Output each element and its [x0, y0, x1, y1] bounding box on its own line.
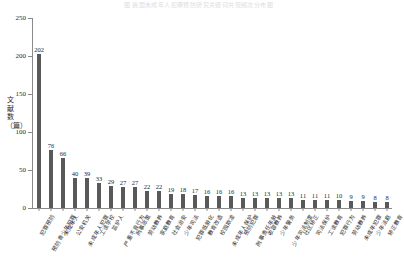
figure-caption-cropped: 图 我国未成年人犯罪预防研究关键词共现频次分布图 — [0, 0, 397, 10]
x-tick — [303, 208, 304, 211]
bar-item: 66未成年人 — [57, 18, 69, 208]
bar — [97, 183, 101, 208]
bar-series: 202犯罪预防76预防青少年犯罪66未成年人40公安机关39未成年人犯罪33工读… — [33, 18, 392, 208]
x-tick — [351, 208, 352, 211]
x-tick — [231, 208, 232, 211]
bar-value-label: 9 — [349, 193, 352, 200]
bar-value-label: 39 — [84, 170, 91, 177]
bar-item: 40公安机关 — [69, 18, 81, 208]
bar-value-label: 29 — [108, 178, 115, 185]
bar — [277, 198, 281, 208]
y-tick-label: 50 — [19, 166, 26, 174]
bar-item: 8少年法庭 — [369, 18, 381, 208]
x-tick — [279, 208, 280, 211]
x-tick — [123, 208, 124, 211]
x-tick — [195, 208, 196, 211]
bar-item: 22家庭教育 — [153, 18, 165, 208]
x-tick — [363, 208, 364, 211]
bar-value-label: 11 — [324, 192, 330, 199]
x-tick — [267, 208, 268, 211]
x-tick — [111, 208, 112, 211]
bar-value-label: 10 — [336, 192, 343, 199]
bar — [181, 194, 185, 208]
bar-item: 8矫正教育 — [381, 18, 393, 208]
y-tick-label: 0 — [23, 204, 27, 212]
bar — [229, 196, 233, 208]
bar-item: 27严重不良行为 — [117, 18, 129, 208]
bar-item: 13预防犯罪 — [237, 18, 249, 208]
bar-value-label: 22 — [144, 183, 151, 190]
x-tick — [339, 208, 340, 211]
bar-value-label: 17 — [192, 187, 199, 194]
bar-item: 19社会治安 — [165, 18, 177, 208]
y-tick-label: 150 — [16, 90, 27, 98]
bar-item: 202犯罪预防 — [33, 18, 45, 208]
bar-item: 10犯罪行为 — [333, 18, 345, 208]
bar-item: 11司法保护 — [309, 18, 321, 208]
bar — [349, 201, 353, 208]
bar — [337, 200, 341, 208]
bar-value-label: 16 — [204, 188, 211, 195]
bar-item: 76预防青少年犯罪 — [45, 18, 57, 208]
bar-item: 29监护人 — [105, 18, 117, 208]
x-tick — [63, 208, 64, 211]
x-tick — [255, 208, 256, 211]
y-tick — [28, 208, 32, 209]
bar — [133, 187, 137, 208]
bar-item: 16校园欺凌 — [213, 18, 225, 208]
bar-value-label: 13 — [240, 190, 247, 197]
bar-item: 13少年警务 — [273, 18, 285, 208]
bar — [145, 191, 149, 208]
bar-value-label: 76 — [48, 142, 55, 149]
x-tick — [171, 208, 172, 211]
x-tick — [75, 208, 76, 211]
bar — [193, 195, 197, 208]
bar-value-label: 13 — [252, 190, 259, 197]
bar-value-label: 18 — [180, 186, 187, 193]
bar-value-label: 11 — [312, 192, 318, 199]
bar — [61, 158, 65, 208]
bar-item: 33工读学校 — [93, 18, 105, 208]
x-tick — [183, 208, 184, 211]
bar-item: 13刑事责任年龄 — [249, 18, 261, 208]
y-tick — [28, 94, 32, 95]
bar — [121, 187, 125, 208]
bar-item: 39未成年人犯罪 — [81, 18, 93, 208]
bar — [109, 186, 113, 208]
bar — [37, 54, 41, 208]
bar-value-label: 202 — [34, 46, 44, 53]
bar-item: 13收容教养 — [261, 18, 273, 208]
bar-item: 9劳动教养 — [345, 18, 357, 208]
bar-value-label: 33 — [96, 175, 103, 182]
bar — [217, 196, 221, 208]
bar — [253, 198, 257, 208]
bar — [289, 198, 293, 208]
x-tick — [387, 208, 388, 211]
bar-value-label: 27 — [120, 179, 127, 186]
x-tick — [291, 208, 292, 211]
bar — [265, 198, 269, 208]
bar-value-label: 16 — [216, 188, 223, 195]
bar-item: 22劳动教养 — [141, 18, 153, 208]
x-tick — [159, 208, 160, 211]
bar-item: 11工读教育 — [321, 18, 333, 208]
x-tick — [51, 208, 52, 211]
bar — [325, 200, 329, 208]
x-tick — [243, 208, 244, 211]
bar-value-label: 16 — [228, 188, 235, 195]
x-tick — [87, 208, 88, 211]
y-tick-label: 200 — [16, 52, 27, 60]
x-tick — [375, 208, 376, 211]
bar-value-label: 13 — [288, 190, 295, 197]
bar-value-label: 8 — [373, 194, 376, 201]
bar-value-label: 8 — [385, 194, 388, 201]
bar-item: 11社区矫正 — [297, 18, 309, 208]
x-tick — [39, 208, 40, 211]
bar-value-label: 40 — [72, 170, 79, 177]
bar — [301, 200, 305, 208]
y-axis-title: 文献数（篇） — [6, 96, 15, 130]
plot-area: 文献数（篇） 050100150200250 202犯罪预防76预防青少年犯罪6… — [32, 18, 392, 208]
x-tick — [147, 208, 148, 211]
bar-item: 27刑事政策 — [129, 18, 141, 208]
